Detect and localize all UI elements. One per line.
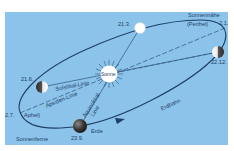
earth-21-6 bbox=[36, 81, 48, 93]
sun-label: Sonne bbox=[101, 72, 115, 77]
perihel-title: Sonnennähe bbox=[188, 13, 220, 19]
aphel-title: Sonnenferne bbox=[16, 137, 48, 143]
earth-23-9 bbox=[73, 119, 87, 133]
perihel-subtitle: (Perihel) bbox=[187, 22, 208, 28]
aphel-date: 2.7. bbox=[5, 113, 14, 119]
date-21-6: 21.6. bbox=[21, 77, 33, 83]
date-22-12: 22.12. bbox=[211, 60, 227, 66]
date-23-9: 23.9. bbox=[71, 136, 83, 142]
perihel-date: 2.1. bbox=[219, 21, 228, 27]
earth-22-12 bbox=[212, 46, 224, 58]
orbit-direction-arrow-icon bbox=[115, 118, 125, 124]
date-21-3: 21.3. bbox=[118, 22, 130, 28]
earth-21-3 bbox=[135, 23, 146, 34]
aphel-subtitle: Aphel) bbox=[24, 113, 40, 119]
earth-label: Erde bbox=[91, 129, 103, 135]
